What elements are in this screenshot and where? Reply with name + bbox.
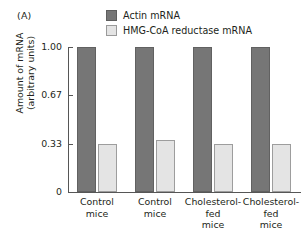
legend-swatch-icon-hmg-coa — [106, 25, 117, 36]
y-tick-label: 1.00 — [41, 42, 62, 51]
y-tick-label: 0 — [56, 187, 62, 196]
x-axis-label-line: Control — [126, 196, 184, 208]
legend-item-actin-mrna: Actin mRNA — [106, 9, 252, 21]
x-axis-label: Controlmice — [126, 196, 184, 219]
plot-area — [68, 47, 300, 192]
x-axis-category-labels: ControlmiceControlmiceCholesterol-fedmic… — [68, 196, 301, 228]
bar-actin-mrna — [77, 47, 96, 192]
y-axis-title-line1: Amount of mRNA — [14, 33, 26, 114]
legend-label-actin: Actin mRNA — [123, 10, 180, 21]
bar-hmg-coa-reductase-mrna — [214, 144, 233, 192]
legend-swatch-icon-actin — [106, 10, 117, 21]
bar-hmg-coa-reductase-mrna — [156, 140, 175, 192]
y-tick-label: 0.67 — [41, 90, 62, 99]
bar-actin-mrna — [135, 47, 154, 192]
x-axis-label-line: mice — [68, 208, 126, 220]
x-axis-label: Controlmice — [68, 196, 126, 219]
x-axis-line — [68, 192, 301, 193]
y-tick-label: 0.33 — [41, 139, 62, 148]
bar-hmg-coa-reductase-mrna — [272, 144, 291, 192]
x-axis-label: Cholesterol-fedmice — [184, 196, 242, 231]
legend-label-hmg-coa: HMG-CoA reductase mRNA — [123, 25, 252, 36]
x-axis-label-line: mice — [126, 208, 184, 220]
chart-legend: Actin mRNA HMG-CoA reductase mRNA — [106, 9, 252, 36]
legend-item-hmg-coa-reductase-mrna: HMG-CoA reductase mRNA — [106, 24, 252, 36]
x-axis-label-line: mice — [184, 219, 242, 231]
x-axis-label-line: Cholesterol-fed — [184, 196, 242, 219]
bar-hmg-coa-reductase-mrna — [98, 144, 117, 192]
y-axis-tick-labels: 1.000.670.330 — [26, 47, 62, 192]
x-axis-label-line: Control — [68, 196, 126, 208]
x-axis-label: Cholesterol-fedmice — [242, 196, 300, 231]
bar-actin-mrna — [193, 47, 212, 192]
figure-panel-a: (A) Actin mRNA HMG-CoA reductase mRNA Am… — [0, 0, 306, 232]
x-axis-label-line: Cholesterol-fed — [242, 196, 300, 219]
bar-actin-mrna — [251, 47, 270, 192]
x-axis-label-line: mice — [242, 219, 300, 231]
